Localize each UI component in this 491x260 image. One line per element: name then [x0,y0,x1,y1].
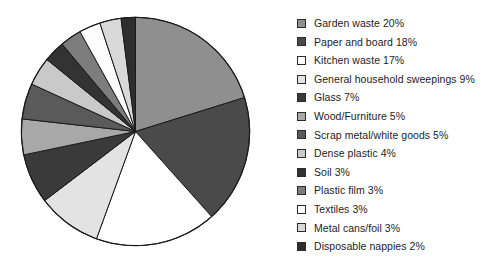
legend-item[interactable]: Paper and board 18% [297,33,487,52]
legend-item[interactable]: General household sweepings 9% [297,70,487,89]
legend-item-label: Scrap metal/white goods 5% [314,130,448,141]
legend-item[interactable]: Textiles 3% [297,200,487,219]
legend-item-label: Plastic film 3% [314,185,383,196]
legend-item[interactable]: Glass 7% [297,88,487,107]
legend-item-label: Soil 3% [314,167,350,178]
legend-item[interactable]: Soil 3% [297,163,487,182]
legend-swatch-icon [297,168,306,177]
legend-swatch-icon [297,93,306,102]
legend-swatch-icon [297,112,306,121]
legend-item-label: Garden waste 20% [314,18,404,29]
legend-item[interactable]: Disposable nappies 2% [297,237,487,256]
pie-chart-plot-area [20,16,251,247]
pie-svg [20,16,251,247]
pie-chart-figure: Garden waste 20%Paper and board 18%Kitch… [0,0,491,260]
legend-swatch-icon [297,75,306,84]
legend-item-label: Wood/Furniture 5% [314,111,405,122]
legend-swatch-icon [297,242,306,251]
legend-item[interactable]: Dense plastic 4% [297,144,487,163]
legend-item-label: Disposable nappies 2% [314,241,425,252]
legend-item[interactable]: Wood/Furniture 5% [297,107,487,126]
legend-item-label: Kitchen waste 17% [314,55,404,66]
legend-swatch-icon [297,205,306,214]
legend-item[interactable]: Plastic film 3% [297,181,487,200]
pie-slice-group [21,17,249,245]
legend-item[interactable]: Metal cans/foil 3% [297,219,487,238]
legend-swatch-icon [297,19,306,28]
legend-swatch-icon [297,130,306,139]
legend-swatch-icon [297,149,306,158]
legend-swatch-icon [297,223,306,232]
legend-item-label: Glass 7% [314,92,359,103]
legend-item-label: Dense plastic 4% [314,148,396,159]
legend-item-label: General household sweepings 9% [314,74,475,85]
legend-swatch-icon [297,56,306,65]
legend-item-label: Metal cans/foil 3% [314,223,400,234]
legend-item-label: Paper and board 18% [314,37,417,48]
chart-legend: Garden waste 20%Paper and board 18%Kitch… [297,14,487,256]
legend-item[interactable]: Kitchen waste 17% [297,51,487,70]
legend-item-label: Textiles 3% [314,204,368,215]
legend-item[interactable]: Garden waste 20% [297,14,487,33]
legend-swatch-icon [297,37,306,46]
legend-item[interactable]: Scrap metal/white goods 5% [297,126,487,145]
legend-swatch-icon [297,186,306,195]
